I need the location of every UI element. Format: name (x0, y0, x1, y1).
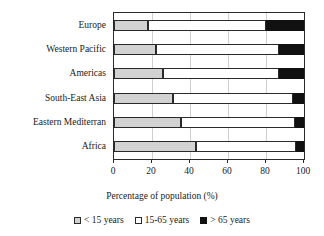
plot-area (113, 12, 305, 160)
category-label: South-East Asia (0, 93, 106, 104)
legend-item-over-65[interactable]: > 65 years (200, 214, 250, 226)
legend-label-under-15: < 15 years (84, 214, 124, 226)
x-axis-tick (303, 159, 304, 163)
legend-label-15-65: 15-65 years (145, 214, 190, 226)
category-label: Africa (0, 141, 106, 152)
bar-segment (181, 117, 295, 128)
bar-segment (279, 68, 304, 79)
bar-segment (266, 20, 304, 31)
x-axis-tick (113, 159, 114, 163)
bar-row (114, 68, 304, 79)
bar-row (114, 20, 304, 31)
bar-segment (114, 68, 163, 79)
chart-legend: < 15 years 15-65 years > 65 years (0, 214, 324, 226)
legend-label-over-65: > 65 years (210, 214, 250, 226)
bar-segment (156, 44, 280, 55)
bar-row (114, 44, 304, 55)
legend-item-15-65[interactable]: 15-65 years (135, 214, 190, 226)
bar-segment (114, 44, 156, 55)
x-axis-ticks (113, 159, 304, 164)
bar-segment (296, 141, 304, 152)
bar-row (114, 117, 304, 128)
bar-segment (279, 44, 304, 55)
x-axis-title: Percentage of population (%) (0, 190, 324, 202)
x-axis-tick-label: 60 (222, 165, 232, 177)
category-label: Europe (0, 20, 106, 31)
category-axis-labels: EuropeWestern PacificAmericasSouth-East … (0, 12, 110, 158)
category-label: Eastern Mediterran (0, 117, 106, 128)
bar-segment (163, 68, 279, 79)
bar-segment (114, 117, 181, 128)
bar-segment (295, 117, 305, 128)
legend-swatch-15-65-icon (135, 217, 142, 224)
bar-segment (148, 20, 266, 31)
x-axis-tick-label: 80 (260, 165, 270, 177)
x-axis-tick (265, 159, 266, 163)
bar-segment (196, 141, 297, 152)
stacked-bar-chart: EuropeWestern PacificAmericasSouth-East … (0, 0, 324, 236)
x-axis-tick-label: 40 (184, 165, 194, 177)
x-axis-tick (151, 159, 152, 163)
bar-row (114, 93, 304, 104)
bar-series-group (114, 13, 304, 159)
x-axis-tick-label: 100 (296, 165, 310, 177)
legend-item-under-15[interactable]: < 15 years (74, 214, 124, 226)
x-axis-tick-label: 0 (111, 165, 116, 177)
category-label: Western Pacific (0, 44, 106, 55)
bar-segment (173, 93, 293, 104)
legend-swatch-under-15-icon (74, 217, 81, 224)
bar-segment (293, 93, 304, 104)
bar-segment (114, 141, 196, 152)
x-axis-tick-labels: 020406080100 (113, 165, 304, 178)
bar-segment (114, 20, 148, 31)
bar-segment (114, 93, 173, 104)
legend-swatch-over-65-icon (200, 217, 207, 224)
x-axis-tick-label: 20 (146, 165, 156, 177)
category-label: Americas (0, 68, 106, 79)
x-axis-tick (227, 159, 228, 163)
bar-row (114, 141, 304, 152)
x-axis-tick (189, 159, 190, 163)
